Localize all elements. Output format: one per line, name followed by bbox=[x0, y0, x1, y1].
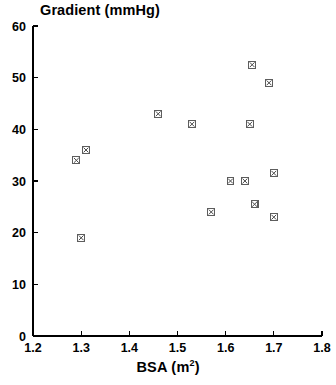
data-point bbox=[83, 147, 90, 154]
data-point bbox=[251, 201, 258, 208]
data-point bbox=[189, 121, 196, 128]
x-tick-label: 1.6 bbox=[217, 341, 234, 355]
ticks-group bbox=[33, 26, 322, 336]
y-tick-label: 60 bbox=[12, 20, 26, 34]
data-points-group bbox=[73, 61, 277, 241]
x-tick-label: 1.2 bbox=[24, 341, 41, 355]
y-tick-label: 40 bbox=[12, 123, 26, 137]
data-point bbox=[270, 214, 277, 221]
data-point bbox=[266, 79, 273, 86]
x-tick-label: 1.3 bbox=[72, 341, 89, 355]
data-point bbox=[155, 110, 162, 117]
y-tick-label: 30 bbox=[12, 175, 26, 189]
tick-labels-group: 01020304050601.21.31.41.51.61.71.8 bbox=[12, 20, 331, 356]
x-tick-label: 1.5 bbox=[169, 341, 186, 355]
x-axis-title-text: BSA (m bbox=[136, 359, 189, 375]
data-point bbox=[242, 178, 249, 185]
x-tick-label: 1.7 bbox=[265, 341, 282, 355]
data-point bbox=[249, 61, 256, 68]
data-point bbox=[270, 170, 277, 177]
data-point bbox=[73, 157, 80, 164]
x-tick-label: 1.4 bbox=[121, 341, 138, 355]
axes-group bbox=[33, 26, 322, 336]
plot-area: 01020304050601.21.31.41.51.61.71.8 bbox=[0, 0, 336, 385]
data-point bbox=[208, 209, 215, 216]
data-point bbox=[78, 234, 85, 241]
data-point bbox=[227, 178, 234, 185]
y-tick-label: 20 bbox=[12, 226, 26, 240]
y-tick-label: 10 bbox=[12, 278, 26, 292]
x-axis-title: BSA (m2) bbox=[0, 358, 336, 375]
y-tick-label: 50 bbox=[12, 71, 26, 85]
x-tick-label: 1.8 bbox=[313, 341, 330, 355]
x-axis-title-close: ) bbox=[195, 359, 200, 375]
data-point bbox=[246, 121, 253, 128]
scatter-chart: Gradient (mmHg) 01020304050601.21.31.41.… bbox=[0, 0, 336, 385]
